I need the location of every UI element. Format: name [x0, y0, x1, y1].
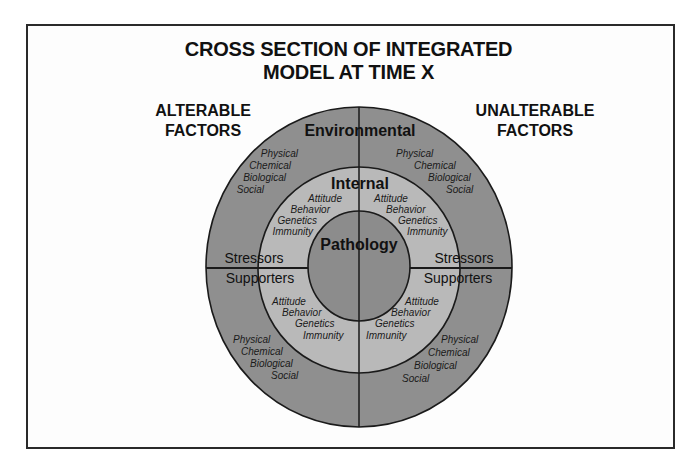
- env-factor: Chemical: [249, 160, 291, 171]
- internal-factor: Attitude: [373, 193, 408, 204]
- env-factor: Physical: [396, 148, 434, 159]
- internal-factor: Immunity: [407, 226, 449, 237]
- internal-factor: Attitude: [307, 193, 342, 204]
- env-factor: Biological: [250, 358, 294, 369]
- env-factor: Biological: [243, 172, 287, 183]
- internal-factor: Behavior: [291, 204, 331, 215]
- internal-factor: Genetics: [278, 215, 317, 226]
- env-factor: Chemical: [428, 347, 470, 358]
- env-factor: Social: [271, 370, 299, 381]
- env-factor: Chemical: [241, 346, 283, 357]
- internal-factor: Behavior: [386, 204, 426, 215]
- env-factor: Physical: [233, 334, 271, 345]
- env-factor: Physical: [261, 148, 299, 159]
- stressors-left-label: Stressors: [224, 250, 283, 266]
- env-factor: Social: [446, 184, 474, 195]
- internal-factor: Attitude: [271, 296, 306, 307]
- env-factor: Physical: [441, 334, 479, 345]
- concentric-model-diagram: Environmental Internal Pathology Stresso…: [0, 0, 697, 474]
- internal-factor: Genetics: [295, 318, 334, 329]
- internal-factor: Genetics: [398, 215, 437, 226]
- env-factor: Biological: [414, 360, 458, 371]
- supporters-left-label: Supporters: [226, 270, 294, 286]
- env-factor: Biological: [428, 172, 472, 183]
- env-factor: Social: [237, 184, 265, 195]
- internal-factor: Immunity: [303, 330, 345, 341]
- internal-label: Internal: [331, 175, 389, 192]
- internal-factor: Immunity: [272, 226, 314, 237]
- internal-factor: Behavior: [391, 307, 431, 318]
- env-factor: Social: [402, 373, 430, 384]
- stressors-right-label: Stressors: [434, 250, 493, 266]
- internal-factor: Genetics: [375, 318, 414, 329]
- internal-factor: Behavior: [282, 307, 322, 318]
- environmental-label: Environmental: [304, 122, 415, 139]
- internal-factor: Immunity: [366, 330, 408, 341]
- pathology-label: Pathology: [320, 236, 397, 253]
- env-factor: Chemical: [414, 160, 456, 171]
- supporters-right-label: Supporters: [424, 270, 492, 286]
- internal-factor: Attitude: [404, 296, 439, 307]
